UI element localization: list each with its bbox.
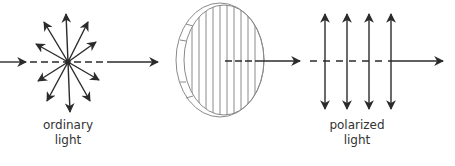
ordinary-label-line2: light <box>38 133 98 148</box>
ordinary-light-starburst <box>36 14 99 112</box>
polarized-label-line1: polarized <box>317 118 397 133</box>
polarizing-filter <box>176 0 264 120</box>
ordinary-light-label: ordinary light <box>38 118 98 148</box>
polarized-label-line2: light <box>317 133 397 148</box>
polarized-light-label: polarized light <box>317 118 397 148</box>
ordinary-label-line1: ordinary <box>38 118 98 133</box>
